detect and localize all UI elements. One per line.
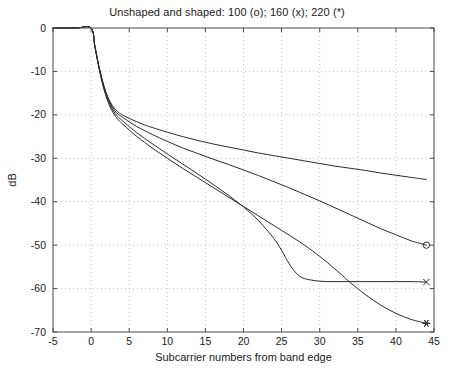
y-tick-label: -70	[31, 326, 46, 338]
y-tick-label: -20	[31, 108, 46, 120]
y-tick-label: -60	[31, 282, 46, 294]
y-tick-label: -50	[31, 239, 46, 251]
gridlines	[53, 28, 434, 332]
x-tick-label: 15	[200, 335, 212, 347]
series-line-160	[53, 27, 426, 282]
y-tick-label: 0	[40, 22, 46, 34]
x-tick-label: -5	[48, 335, 57, 347]
chart-plot-area: -5051015202530354045 0-10-20-30-40-50-60…	[0, 0, 454, 372]
x-tick-label: 40	[390, 335, 402, 347]
x-tick-label: 25	[276, 335, 288, 347]
x-tick-label: 30	[314, 335, 326, 347]
x-axis-label: Subcarrier numbers from band edge	[155, 351, 332, 363]
y-axis-label: dB	[6, 173, 18, 186]
x-tick-label: 10	[161, 335, 173, 347]
x-tick-label: 45	[428, 335, 440, 347]
x-tick-label: 5	[126, 335, 132, 347]
chart-figure: Unshaped and shaped: 100 (o); 160 (x); 2…	[0, 0, 454, 372]
y-tick-labels: 0-10-20-30-40-50-60-70	[31, 22, 46, 338]
x-tick-label: 0	[88, 335, 94, 347]
series-markers	[423, 242, 431, 327]
series-line-100	[53, 27, 426, 245]
y-tick-label: -40	[31, 195, 46, 207]
marker-*-220	[423, 320, 431, 327]
x-tick-label: 20	[238, 335, 250, 347]
x-tick-labels: -5051015202530354045	[48, 335, 440, 347]
y-tick-label: -30	[31, 152, 46, 164]
y-tick-label: -10	[31, 65, 46, 77]
x-tick-label: 35	[352, 335, 364, 347]
